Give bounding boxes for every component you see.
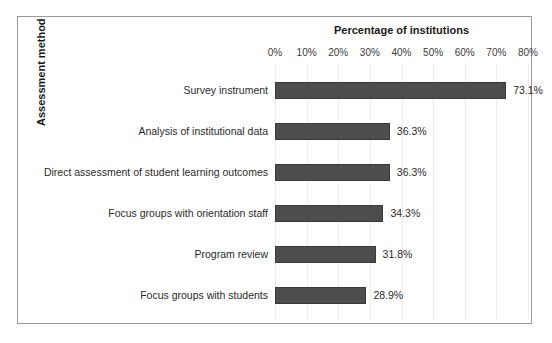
bar-row: 31.8%	[275, 246, 528, 263]
bar-value-label: 36.3%	[397, 165, 427, 180]
x-tick-label: 50%	[423, 46, 443, 59]
category-label: Program review	[40, 246, 268, 263]
category-label: Direct assessment of student learning ou…	[40, 164, 268, 181]
bar-value-label: 28.9%	[373, 288, 403, 303]
x-tick-label: 0%	[268, 46, 282, 59]
bar	[275, 287, 366, 304]
bar-row: 28.9%	[275, 287, 528, 304]
chart-figure: Assessment method Percentage of institut…	[0, 0, 552, 343]
x-tick-label: 60%	[455, 46, 475, 59]
x-axis-tick-labels: 0%10%20%30%40%50%60%70%80%	[275, 46, 528, 60]
bar-value-label: 36.3%	[397, 124, 427, 139]
x-tick-label: 70%	[486, 46, 506, 59]
bar-value-label: 73.1%	[513, 83, 543, 98]
category-label: Survey instrument	[40, 82, 268, 99]
x-tick-label: 10%	[297, 46, 317, 59]
bar	[275, 82, 506, 99]
gridline	[528, 64, 529, 319]
bar	[275, 123, 390, 140]
bar-row: 36.3%	[275, 123, 528, 140]
bar-row: 73.1%	[275, 82, 528, 99]
x-tick-label: 40%	[391, 46, 411, 59]
bar-value-label: 31.8%	[383, 247, 413, 262]
bar-rows: 73.1%36.3%36.3%34.3%31.8%28.9%	[275, 64, 528, 319]
bar-value-label: 34.3%	[390, 206, 420, 221]
bar	[275, 205, 383, 222]
bar-row: 36.3%	[275, 164, 528, 181]
category-label: Focus groups with orientation staff	[40, 205, 268, 222]
plot-area: 73.1%36.3%36.3%34.3%31.8%28.9%	[275, 64, 528, 319]
chart-title: Percentage of institutions	[275, 24, 528, 36]
bar-row: 34.3%	[275, 205, 528, 222]
bar	[275, 246, 376, 263]
x-tick-label: 30%	[360, 46, 380, 59]
x-tick-label: 80%	[518, 46, 538, 59]
bar	[275, 164, 390, 181]
category-label: Focus groups with students	[40, 287, 268, 304]
category-label: Analysis of institutional data	[40, 123, 268, 140]
x-tick-label: 20%	[328, 46, 348, 59]
category-labels: Survey instrumentAnalysis of institution…	[40, 64, 268, 319]
